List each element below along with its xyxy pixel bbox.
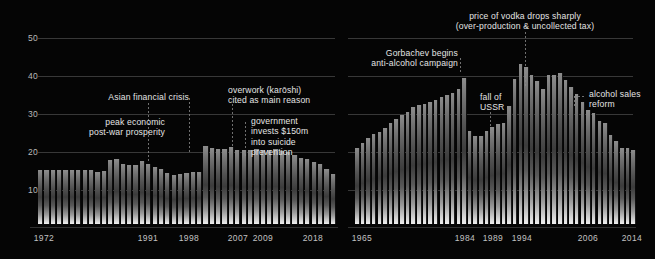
bar (586, 110, 591, 224)
bar (451, 93, 456, 224)
bar (197, 172, 202, 224)
bar (108, 160, 113, 224)
bar (324, 169, 329, 224)
bar (513, 79, 518, 224)
bar (507, 106, 512, 224)
y-tick-20: 20 (16, 148, 38, 157)
bar (620, 148, 625, 224)
bar (248, 150, 253, 224)
bar (172, 175, 177, 224)
chart-panel-russia: Gorbachev begins anti-alcohol campaign p… (340, 0, 655, 259)
bar (312, 162, 317, 224)
x-tick-1989: 1989 (483, 233, 504, 243)
bar (292, 155, 297, 224)
bar (519, 64, 524, 224)
bar (547, 75, 552, 224)
bar (378, 132, 383, 224)
bar (280, 151, 285, 224)
bar (44, 170, 49, 224)
bar (400, 115, 405, 224)
bar (191, 172, 196, 224)
x-tick-1972: 1972 (34, 233, 55, 243)
x-tick-2007: 2007 (228, 233, 249, 243)
leader-alcohol-reform-stem (574, 96, 575, 106)
bar (165, 173, 170, 224)
bar (428, 102, 433, 224)
bar (558, 73, 563, 224)
bar (496, 124, 501, 224)
leader-overwork (232, 104, 233, 152)
chart-canvas: 50 40 30 20 10 peak economic post-war pr… (0, 0, 655, 259)
bar (552, 75, 557, 224)
bar (383, 128, 388, 224)
bar (485, 131, 490, 224)
bar (121, 164, 126, 224)
y-tick-50: 50 (16, 34, 38, 43)
leader-asian-crisis (189, 98, 190, 152)
annotation-peak-economic: peak economic post-war prosperity (89, 117, 165, 138)
bar (235, 150, 240, 224)
bar (569, 87, 574, 224)
bar (394, 119, 399, 224)
y-tick-40: 40 (16, 72, 38, 81)
bar (417, 105, 422, 224)
y-tick-10: 10 (16, 186, 38, 195)
bar (331, 174, 336, 224)
bar (592, 113, 597, 224)
bar (286, 152, 291, 224)
bar (609, 135, 614, 224)
annotation-vodka-price-drop: price of vodka drops sharply (over-produ… (456, 11, 595, 32)
annotation-fall-of-ussr: fall of USSR (480, 92, 504, 113)
bar (51, 170, 56, 224)
bar (614, 141, 619, 224)
x-tick-2014: 2014 (622, 233, 643, 243)
chart-panel-japan: 50 40 30 20 10 peak economic post-war pr… (0, 0, 340, 259)
bar (70, 170, 75, 224)
annotation-government-suicide-prevention: government invests $150m into suicide pr… (251, 116, 308, 158)
bar (229, 147, 234, 224)
x-tick-1998: 1998 (179, 233, 200, 243)
x-tick-1991: 1991 (138, 233, 159, 243)
bar (242, 150, 247, 224)
bar (140, 161, 145, 224)
x-axis-baseline (30, 227, 338, 228)
bar (273, 149, 278, 224)
bar (355, 148, 360, 224)
bar (462, 78, 467, 224)
bar (127, 165, 132, 224)
bar (411, 107, 416, 224)
x-tick-2018: 2018 (303, 233, 324, 243)
bar (468, 131, 473, 224)
bar (564, 80, 569, 224)
bar (479, 136, 484, 224)
x-tick-2006: 2006 (578, 233, 599, 243)
bar (305, 159, 310, 224)
bar (361, 143, 366, 224)
bar (473, 136, 478, 224)
annotation-gorbachev-campaign: Gorbachev begins anti-alcohol campaign (371, 48, 458, 69)
x-tick-2009: 2009 (253, 233, 274, 243)
x-axis-baseline (348, 227, 636, 228)
bar (535, 81, 540, 224)
bar (203, 146, 208, 224)
bar (76, 170, 81, 224)
annotation-overwork-karoshi: overwork (karōshi) cited as main reason (228, 85, 310, 106)
bar (502, 123, 507, 224)
bar (423, 104, 428, 224)
bar (102, 171, 107, 224)
leader-government-invests (245, 122, 246, 156)
bar (267, 150, 272, 224)
bar (406, 112, 411, 224)
bar (146, 164, 151, 224)
bar (440, 97, 445, 224)
bar (95, 172, 100, 224)
bar (541, 89, 546, 224)
bar (254, 149, 259, 224)
bar (581, 102, 586, 224)
bar (57, 170, 62, 224)
x-tick-1994: 1994 (512, 233, 533, 243)
bar (159, 169, 164, 224)
leader-fall-of-ussr (490, 112, 491, 133)
bar (184, 173, 189, 224)
bar (631, 150, 636, 224)
